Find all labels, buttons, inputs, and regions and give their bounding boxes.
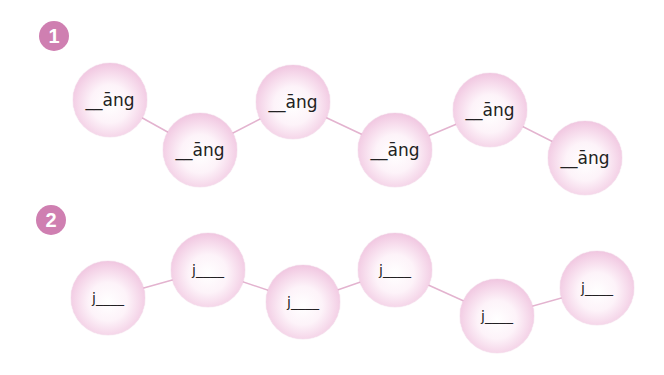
- j-ball-4[interactable]: j____: [358, 233, 432, 307]
- ang-ball-label: __āng: [548, 148, 622, 168]
- ang-ball-label: __āng: [453, 100, 527, 120]
- j-ball-label: j____: [266, 294, 340, 310]
- j-ball-6[interactable]: j____: [560, 251, 634, 325]
- ang-ball-label: __āng: [163, 140, 237, 160]
- ang-ball-6[interactable]: __āng: [548, 121, 622, 195]
- ang-ball-4[interactable]: __āng: [358, 113, 432, 187]
- j-ball-label: j____: [460, 308, 534, 324]
- j-ball-label: j____: [358, 262, 432, 278]
- ang-ball-3[interactable]: __āng: [256, 65, 330, 139]
- ang-ball-label: __āng: [73, 90, 147, 110]
- ang-ball-2[interactable]: __āng: [163, 113, 237, 187]
- ang-ball-label: __āng: [256, 92, 330, 112]
- j-ball-3[interactable]: j____: [266, 265, 340, 339]
- ang-ball-label: __āng: [358, 140, 432, 160]
- ang-ball-5[interactable]: __āng: [453, 73, 527, 147]
- j-ball-1[interactable]: j____: [71, 261, 145, 335]
- j-ball-2[interactable]: j____: [171, 233, 245, 307]
- j-ball-5[interactable]: j____: [460, 279, 534, 353]
- j-ball-label: j____: [560, 280, 634, 296]
- j-ball-label: j____: [71, 290, 145, 306]
- ang-ball-1[interactable]: __āng: [73, 63, 147, 137]
- j-ball-label: j____: [171, 262, 245, 278]
